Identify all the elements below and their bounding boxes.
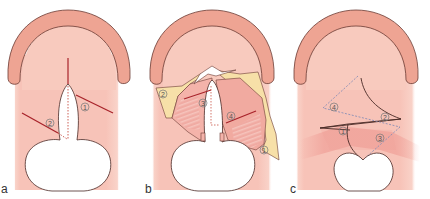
svg-text:3: 3	[378, 135, 382, 142]
panel-a: 1 2 a	[1, 10, 130, 196]
svg-text:4: 4	[229, 113, 233, 120]
panel-b: 1 2 3 4 b	[145, 10, 279, 196]
svg-text:2: 2	[48, 120, 52, 127]
svg-text:2: 2	[161, 91, 165, 98]
panel-label-b: b	[145, 182, 152, 196]
svg-text:3: 3	[201, 100, 205, 107]
svg-text:2: 2	[383, 114, 387, 121]
panel-label-c: c	[290, 182, 296, 196]
panel-label-a: a	[1, 182, 8, 196]
svg-text:1: 1	[83, 104, 87, 111]
svg-text:1: 1	[341, 128, 345, 135]
palate-diagram: 1 2 a	[0, 0, 430, 199]
svg-text:1: 1	[262, 147, 266, 154]
panel-c: 1 2 3 4 c	[290, 10, 420, 196]
svg-text:4: 4	[332, 104, 336, 111]
